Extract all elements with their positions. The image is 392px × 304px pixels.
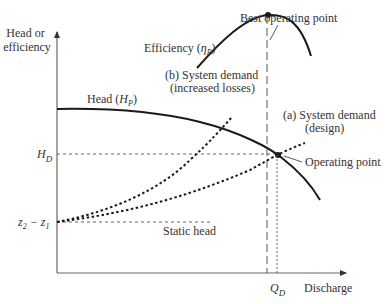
y-axis-label: Head or efficiency: [3, 26, 51, 54]
pump-curve-diagram: Head or efficiency Discharge HD z2 − z1 …: [0, 0, 392, 304]
best-operating-point-arrow: [270, 25, 278, 40]
operating-point-label: Operating point: [305, 155, 381, 169]
head-curve-label: Head (HP): [87, 92, 137, 108]
system-demand-a-curve: [57, 143, 305, 222]
x-axis-label: Discharge: [304, 281, 352, 295]
hd-label: HD: [36, 147, 53, 164]
static-head-tick-label: z2 − z1: [17, 215, 49, 231]
qd-label: QD: [270, 281, 286, 298]
system-demand-b-label: (b) System demand (increased losses): [165, 68, 261, 95]
system-demand-b-curve: [57, 117, 232, 222]
best-operating-point-label: Best operating point: [240, 11, 338, 25]
efficiency-curve-label: Efficiency (ηP): [144, 41, 216, 57]
static-head-label: Static head: [163, 224, 216, 238]
operating-point-marker: [275, 152, 281, 158]
system-demand-a-label: (a) System demand (design): [283, 108, 379, 135]
